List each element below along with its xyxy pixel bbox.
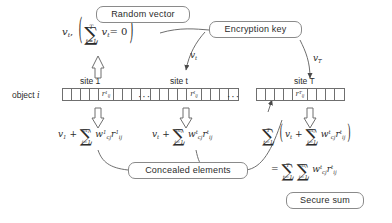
res-equals: = [271,164,279,174]
st-w: w [188,129,196,139]
tot-r-sub: ij [342,134,345,140]
res-outer-sum-symbol: ∑Tt=1 [281,165,294,177]
tot-inner-sum-symbol: ∑mtj=1 [305,130,318,142]
array-cell[interactable] [266,89,275,100]
rv-sum-top: T [89,25,93,31]
s1-sum-bot: j=1 [81,140,90,145]
random-vector-label: Random vector [111,10,175,19]
site1-val-sub: ij [108,94,111,99]
res-outer-bot: t=1 [283,175,293,180]
object-index: i [37,90,40,100]
key-vt-label: vt [190,51,197,61]
arrow-into-site-T-array [268,100,272,112]
st-sum-bot: j=1 [174,140,183,145]
site-t-array[interactable]: rtij [150,88,239,101]
tot-paren-open: ( [279,123,283,144]
link-randomvector-to-key [160,29,209,33]
tot-lead-sub: t [290,134,292,140]
rv-equals: = 0 [110,26,128,37]
array-cell[interactable] [317,89,326,100]
array-cell-value[interactable]: r1ij [99,89,114,100]
tot-inner-bot: j=1 [307,140,316,145]
tot-plus: + [295,129,303,139]
site-t-expression: vt + ∑mtj=1 wtcjrtij [152,130,212,143]
encryption-key-box[interactable]: Encryption key [209,21,302,38]
array-cell[interactable] [335,89,344,100]
s1-r-sub: ij [119,134,122,140]
res-w: w [312,164,320,174]
connector-layer [0,0,392,223]
s1-plus: + [69,129,77,139]
array-cell[interactable] [90,89,99,100]
ellipsis-right: ··· [227,91,240,102]
object-word: object [12,90,35,100]
key-vt-sub: t [195,55,197,61]
random-vector-box[interactable]: Random vector [96,6,190,23]
object-row-label: object i [12,91,40,100]
array-cell[interactable] [81,89,90,100]
array-cell[interactable] [202,89,211,100]
secure-sum-label: Secure sum [300,196,350,205]
res-inner-sum-symbol: ∑mtj=1 [297,165,310,177]
tot-outer-top: T [266,128,270,133]
array-cell[interactable] [284,89,293,100]
array-cell[interactable] [160,89,169,100]
ellipsis-left: ··· [138,91,151,102]
site-1-label: site 1 [80,77,100,86]
array-cell[interactable] [257,89,266,100]
array-cell[interactable] [72,89,81,100]
concealed-elements-box[interactable]: Concealed elements [128,162,248,179]
site-t-label: site t [170,77,188,86]
array-cell[interactable] [63,89,72,100]
link-site1-to-concealed [98,150,128,170]
st-lead-sub: t [157,134,159,140]
array-cell[interactable] [308,89,317,100]
sitet-val-sub: ij [195,94,198,99]
siteT-val-sub: ij [302,94,305,99]
secure-sum-box[interactable]: Secure sum [286,192,364,209]
total-expression: ∑Tt=1 (vt + ∑mtj=1 wtcjrtij) [262,130,353,143]
s1-lead-sub: 1 [63,134,66,140]
array-cell[interactable] [178,89,187,100]
res-outer-top: T [286,163,290,168]
st-sum-top: mt [176,128,182,134]
random-vector-expression: vt, (∑Tt=1 vt= 0) [62,27,135,41]
array-cell[interactable] [114,89,123,100]
st-sum-symbol: ∑mtj=1 [173,130,186,142]
tot-inner-top: mt [309,128,315,134]
tot-outer-bot: t=1 [263,140,273,145]
rv-sum-symbol: ∑Tt=1 [84,28,98,42]
concealed-elements-label: Concealed elements [145,166,231,175]
array-cell[interactable] [169,89,178,100]
site-T-array[interactable]: rTij [256,88,345,101]
res-inner-top: mt [300,163,306,169]
array-cell-value[interactable]: rtij [187,89,202,100]
array-cell[interactable] [123,89,132,100]
paren-open: ( [78,16,82,45]
st-r-sub: ij [209,134,212,140]
s1-sum-top: m1 [83,128,90,134]
array-cell[interactable] [211,89,220,100]
rv-sum-bot: t=1 [86,39,97,45]
key-vT-sub: T [318,58,322,64]
array-cell-value[interactable]: rTij [293,89,308,100]
result-expression: = ∑Tt=1 ∑mtj=1 wtcjrtij [271,165,337,178]
encryption-key-label: Encryption key [225,25,287,34]
array-cell[interactable] [275,89,284,100]
array-cell[interactable] [326,89,335,100]
array-cell[interactable] [151,89,160,100]
key-vT-label: vT [313,54,322,64]
res-r-sub: ij [333,169,336,175]
tot-paren-close: ) [347,123,351,144]
s1-w: w [95,129,103,139]
tot-w: w [321,129,329,139]
arrow-key-to-site-T [300,40,310,78]
site-T-label: site T [294,77,315,86]
tot-outer-sum-symbol: ∑Tt=1 [262,130,275,142]
diagram-canvas: Random vector vt, (∑Tt=1 vt= 0) Encrypti… [0,0,392,223]
site-1-expression: v1 + ∑m1j=1 w1cjr1ij [58,130,122,143]
s1-sum-symbol: ∑m1j=1 [80,130,93,142]
res-inner-bot: j=1 [298,175,307,180]
st-plus: + [162,129,170,139]
